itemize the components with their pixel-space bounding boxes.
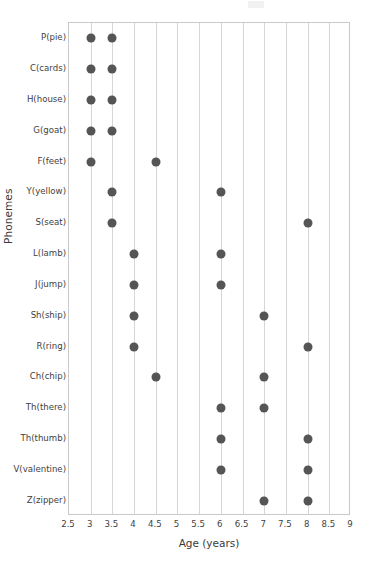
- gridline: [264, 23, 265, 514]
- x-tick-label: 9: [347, 519, 352, 529]
- data-point: [303, 465, 312, 474]
- y-tick-label: Th(there): [4, 403, 66, 412]
- x-tick-label: 7.5: [278, 519, 292, 529]
- gridline: [134, 23, 135, 514]
- x-tick-label: 4.5: [148, 519, 162, 529]
- data-point: [86, 34, 95, 43]
- y-tick-label: Th(thumb): [4, 433, 66, 442]
- y-axis-tick-labels: P(pie)C(cards)H(house)G(goat)F(feet)Y(ye…: [0, 0, 66, 588]
- x-tick-label: 4: [130, 519, 135, 529]
- plot-area: [68, 22, 350, 515]
- x-tick-label: 3: [87, 519, 92, 529]
- data-point: [216, 404, 225, 413]
- data-point: [86, 126, 95, 135]
- data-point: [216, 434, 225, 443]
- y-tick-label: G(goat): [4, 125, 66, 134]
- data-point: [216, 465, 225, 474]
- data-point: [151, 157, 160, 166]
- phoneme-age-scatter-chart: Phonemes P(pie)C(cards)H(house)G(goat)F(…: [0, 0, 371, 588]
- data-point: [86, 96, 95, 105]
- data-point: [108, 65, 117, 74]
- gridline: [329, 23, 330, 514]
- data-point: [303, 434, 312, 443]
- x-tick-label: 3.5: [105, 519, 119, 529]
- data-point: [260, 496, 269, 505]
- x-tick-label: 6: [217, 519, 222, 529]
- y-tick-label: S(seat): [4, 218, 66, 227]
- data-point: [303, 219, 312, 228]
- x-tick-label: 2.5: [61, 519, 75, 529]
- data-point: [216, 250, 225, 259]
- data-point: [108, 34, 117, 43]
- gridline: [199, 23, 200, 514]
- data-point: [108, 219, 117, 228]
- y-tick-label: H(house): [4, 95, 66, 104]
- x-tick-label: 5.5: [191, 519, 205, 529]
- x-tick-label: 8: [304, 519, 309, 529]
- gridline: [156, 23, 157, 514]
- y-tick-label: Z(zipper): [4, 495, 66, 504]
- x-tick-label: 6.5: [235, 519, 249, 529]
- y-tick-label: L(lamb): [4, 249, 66, 258]
- data-point: [108, 126, 117, 135]
- y-tick-label: Y(yellow): [4, 187, 66, 196]
- y-tick-label: P(pie): [4, 33, 66, 42]
- gridline: [177, 23, 178, 514]
- data-point: [108, 96, 117, 105]
- data-point: [86, 65, 95, 74]
- x-tick-label: 7: [260, 519, 265, 529]
- data-point: [108, 188, 117, 197]
- y-tick-label: R(ring): [4, 341, 66, 350]
- y-tick-label: Sh(ship): [4, 310, 66, 319]
- data-point: [216, 188, 225, 197]
- data-point: [216, 280, 225, 289]
- y-tick-label: F(feet): [4, 156, 66, 165]
- data-point: [260, 404, 269, 413]
- data-point: [130, 250, 139, 259]
- x-tick-label: 8.5: [321, 519, 335, 529]
- data-point: [260, 373, 269, 382]
- gridline: [243, 23, 244, 514]
- gridline: [286, 23, 287, 514]
- data-point: [130, 311, 139, 320]
- data-point: [303, 496, 312, 505]
- data-point: [303, 342, 312, 351]
- data-point: [260, 311, 269, 320]
- data-point: [130, 280, 139, 289]
- y-tick-label: C(cards): [4, 64, 66, 73]
- data-point: [130, 342, 139, 351]
- y-tick-label: J(jump): [4, 279, 66, 288]
- data-point: [86, 157, 95, 166]
- y-tick-label: Ch(chip): [4, 372, 66, 381]
- y-tick-label: V(valentine): [4, 464, 66, 473]
- x-tick-label: 5: [174, 519, 179, 529]
- top-artifact: [248, 1, 264, 8]
- x-axis-title: Age (years): [68, 537, 350, 549]
- data-point: [151, 373, 160, 382]
